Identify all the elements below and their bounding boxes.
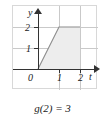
x-tick-label-2: 2	[78, 73, 83, 83]
x-tick-label-1: 1	[57, 73, 62, 83]
figure-container: 2 1 0 1 2 y t g(2) = 3	[0, 0, 105, 128]
y-tick-label-2: 2	[25, 23, 30, 33]
x-axis-label: t	[89, 72, 92, 82]
x-tick-label-0: 0	[28, 73, 33, 83]
y-axis-arrow-icon	[34, 8, 42, 14]
y-tick-2	[34, 27, 39, 28]
y-axis-label: y	[28, 8, 32, 18]
plot-frame: 2 1 0 1 2 y t	[12, 5, 97, 89]
area-polygon	[38, 27, 80, 69]
x-axis-arrow-icon	[94, 65, 100, 73]
y-tick-label-1: 1	[26, 44, 31, 54]
figure-caption: g(2) = 3	[0, 102, 105, 114]
y-axis	[38, 12, 39, 70]
x-axis	[13, 69, 97, 70]
y-tick-1	[34, 48, 39, 49]
